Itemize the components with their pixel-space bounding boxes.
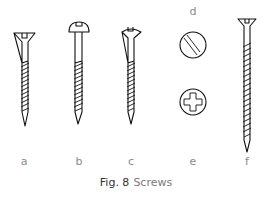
figure-screws: d a b c e f Fig. 8Screws — [0, 0, 272, 203]
figure-number: Fig. 8 — [100, 176, 130, 189]
screw-a-icon — [14, 33, 35, 126]
screws-illustration — [0, 0, 272, 203]
figure-caption: Fig. 8Screws — [100, 177, 172, 188]
label-b: b — [76, 156, 83, 167]
label-d: d — [190, 6, 197, 17]
screw-b-icon — [69, 22, 89, 124]
figure-title: Screws — [133, 176, 172, 189]
slotted-head-icon — [180, 32, 206, 58]
label-c: c — [128, 156, 134, 167]
screw-c-icon — [122, 27, 141, 124]
label-e: e — [190, 156, 197, 167]
label-a: a — [21, 156, 28, 167]
cross-head-icon — [180, 89, 206, 115]
screw-f-icon — [238, 19, 256, 152]
label-f: f — [245, 156, 249, 167]
